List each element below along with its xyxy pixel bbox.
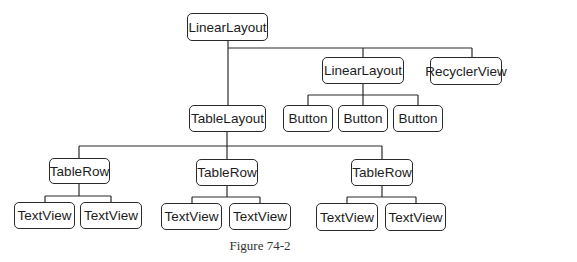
node-tablelayout: TableLayout (189, 105, 266, 132)
node-textview: TextView (229, 203, 291, 230)
node-textview: TextView (80, 202, 142, 229)
figure-caption: Figure 74-2 (0, 238, 520, 254)
node-textview: TextView (161, 203, 222, 230)
view-hierarchy-diagram: LinearLayout LinearLayout RecyclerView T… (0, 0, 577, 262)
node-button: Button (393, 105, 443, 132)
node-textview: TextView (316, 203, 378, 231)
node-button: Button (338, 105, 388, 132)
node-recyclerview: RecyclerView (430, 57, 502, 85)
node-tablerow: TableRow (49, 158, 110, 184)
node-tablerow: TableRow (351, 159, 413, 186)
node-tablerow: TableRow (196, 159, 258, 186)
node-textview: TextView (14, 202, 75, 229)
node-root-linearlayout: LinearLayout (187, 13, 268, 41)
node-button: Button (283, 105, 333, 132)
node-textview: TextView (385, 203, 446, 231)
node-linearlayout-child: LinearLayout (322, 57, 404, 84)
